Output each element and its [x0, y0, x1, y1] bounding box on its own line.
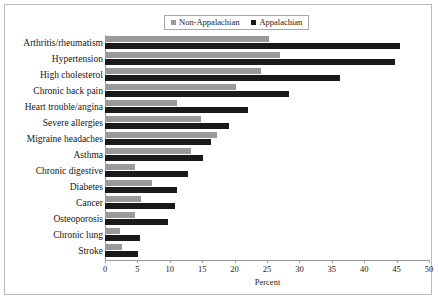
x-tick-label: 25 [263, 264, 272, 274]
category-label: High cholesterol [7, 70, 103, 80]
bar-group [105, 115, 429, 131]
plot-area [105, 35, 429, 259]
category-label: Asthma [7, 150, 103, 160]
category-label: Stroke [7, 246, 103, 256]
x-tick-label: 15 [198, 264, 207, 274]
x-tick-label: 30 [295, 264, 304, 274]
bar-group [105, 195, 429, 211]
x-tick-label: 50 [425, 264, 434, 274]
x-tick-mark [202, 260, 203, 263]
bar-appalachian [105, 187, 177, 193]
bar-appalachian [105, 139, 211, 145]
bar-non-appalachian [105, 36, 269, 42]
legend-swatch-appalachian [251, 20, 256, 25]
category-label: Osteoporosis [7, 214, 103, 224]
bar-group [105, 51, 429, 67]
x-tick-label: 10 [166, 264, 175, 274]
x-axis-ticks: 05101520253035404550 [105, 260, 430, 278]
bar-group [105, 131, 429, 147]
category-label: Severe allergies [7, 118, 103, 128]
legend-entry-appalachian: Appalachian [251, 18, 302, 27]
bar-non-appalachian [105, 132, 217, 138]
x-tick-mark [105, 260, 106, 263]
bar-non-appalachian [105, 116, 201, 122]
bar-appalachian [105, 171, 188, 177]
x-tick-label: 40 [360, 264, 369, 274]
x-tick-mark [429, 260, 430, 263]
bar-group [105, 163, 429, 179]
x-tick-label: 0 [103, 264, 107, 274]
chart-legend: Non-Appalachian Appalachian [164, 15, 309, 30]
bar-non-appalachian [105, 228, 120, 234]
x-tick-mark [267, 260, 268, 263]
bar-appalachian [105, 43, 400, 49]
bar-non-appalachian [105, 100, 177, 106]
bar-appalachian [105, 91, 289, 97]
bar-group [105, 83, 429, 99]
bar-group [105, 67, 429, 83]
bar-non-appalachian [105, 196, 141, 202]
category-label: Chronic digestive [7, 166, 103, 176]
x-axis-title: Percent [105, 277, 430, 287]
bar-non-appalachian [105, 164, 135, 170]
bar-group [105, 99, 429, 115]
bar-appalachian [105, 107, 248, 113]
legend-label-appalachian: Appalachian [259, 18, 302, 27]
bar-appalachian [105, 155, 203, 161]
bar-group [105, 179, 429, 195]
category-label: Diabetes [7, 182, 103, 192]
category-label: Hypertension [7, 54, 103, 64]
bar-group [105, 243, 429, 259]
x-tick-mark [332, 260, 333, 263]
category-label: Arthritis/rheumatism [7, 38, 103, 48]
bar-non-appalachian [105, 180, 152, 186]
bar-appalachian [105, 235, 140, 241]
legend-label-non-appalachian: Non-Appalachian [179, 18, 239, 27]
bar-appalachian [105, 75, 340, 81]
bar-non-appalachian [105, 68, 261, 74]
bar-non-appalachian [105, 212, 135, 218]
category-label: Heart trouble/angina [7, 102, 103, 112]
x-tick-mark [364, 260, 365, 263]
bar-group [105, 211, 429, 227]
x-tick-mark [235, 260, 236, 263]
x-tick-label: 35 [328, 264, 337, 274]
category-label: Chronic back pain [7, 86, 103, 96]
category-axis-labels: Arthritis/rheumatismHypertensionHigh cho… [5, 35, 103, 259]
bar-appalachian [105, 219, 168, 225]
x-tick-mark [299, 260, 300, 263]
bar-appalachian [105, 59, 395, 65]
x-tick-mark [137, 260, 138, 263]
bar-group [105, 35, 429, 51]
bar-non-appalachian [105, 84, 236, 90]
bar-appalachian [105, 123, 229, 129]
category-label: Migraine headaches [7, 134, 103, 144]
legend-entry-non-appalachian: Non-Appalachian [171, 18, 239, 27]
bar-non-appalachian [105, 52, 280, 58]
category-label: Cancer [7, 198, 103, 208]
bar-non-appalachian [105, 148, 191, 154]
legend-swatch-non-appalachian [171, 20, 176, 25]
x-tick-label: 45 [392, 264, 401, 274]
chart-frame: Non-Appalachian Appalachian Arthritis/rh… [4, 4, 432, 295]
x-tick-label: 20 [230, 264, 239, 274]
category-label: Chronic lung [7, 230, 103, 240]
bar-appalachian [105, 203, 175, 209]
bar-group [105, 147, 429, 163]
bar-non-appalachian [105, 244, 122, 250]
bar-appalachian [105, 251, 138, 257]
x-tick-mark [170, 260, 171, 263]
x-tick-label: 5 [135, 264, 139, 274]
bar-group [105, 227, 429, 243]
x-tick-mark [397, 260, 398, 263]
